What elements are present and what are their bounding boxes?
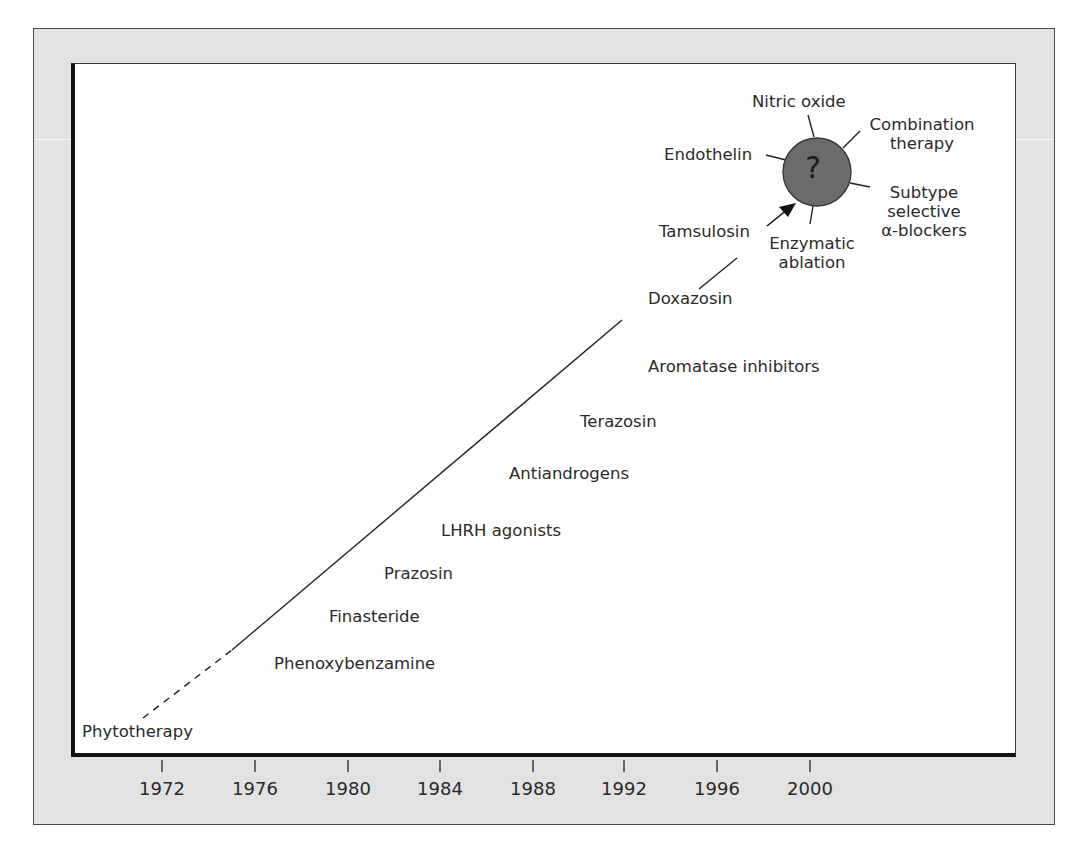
combination-line-1: Combination [862, 115, 982, 134]
tick-label-1980: 1980 [308, 778, 388, 799]
trend-line-solid [232, 320, 622, 650]
subtype-line-2: selective [864, 202, 984, 221]
tick-label-1984: 1984 [400, 778, 480, 799]
arrow-icon [767, 203, 796, 226]
combination-line-2: therapy [862, 134, 982, 153]
subtype-line-3: α-blockers [864, 221, 984, 240]
question-mark-icon: ? [805, 150, 821, 185]
subtype-line-1: Subtype [864, 183, 984, 202]
label-doxazosin: Doxazosin [648, 289, 733, 308]
label-terazosin: Terazosin [580, 412, 657, 431]
tick-label-1988: 1988 [493, 778, 573, 799]
label-tamsulosin: Tamsulosin [659, 222, 750, 241]
axis-ticks [162, 760, 810, 772]
trend-line-upper [699, 258, 737, 289]
tick-label-1976: 1976 [215, 778, 295, 799]
tick-label-2000: 2000 [770, 778, 850, 799]
label-aromatase-inhibitors: Aromatase inhibitors [648, 357, 820, 376]
enzymatic-line-1: Enzymatic [764, 234, 860, 253]
trend-line-dashed [143, 650, 232, 718]
label-phytotherapy: Phytotherapy [82, 722, 193, 741]
label-lhrh-agonists: LHRH agonists [441, 521, 561, 540]
tick-label-1972: 1972 [122, 778, 202, 799]
tick-label-1996: 1996 [677, 778, 757, 799]
label-subtype-selective-alpha-blockers: Subtype selective α-blockers [864, 183, 984, 240]
label-endothelin: Endothelin [664, 145, 752, 164]
tick-label-1992: 1992 [584, 778, 664, 799]
label-antiandrogens: Antiandrogens [509, 464, 629, 483]
label-finasteride: Finasteride [329, 607, 420, 626]
label-prazosin: Prazosin [384, 564, 453, 583]
enzymatic-line-2: ablation [764, 253, 860, 272]
label-enzymatic-ablation: Enzymatic ablation [764, 234, 860, 272]
label-combination-therapy: Combination therapy [862, 115, 982, 153]
label-phenoxybenzamine: Phenoxybenzamine [274, 654, 435, 673]
label-nitric-oxide: Nitric oxide [752, 92, 846, 111]
